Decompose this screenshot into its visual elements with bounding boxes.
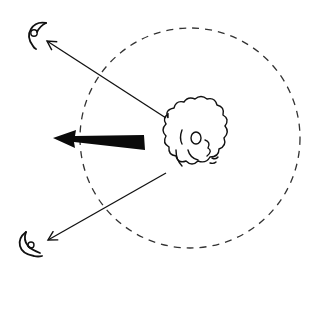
diagram-canvas [0, 0, 315, 317]
thick-direction-arrow [53, 130, 145, 150]
ear-icon [20, 232, 42, 257]
sound-source-cloud-icon [163, 97, 227, 167]
arrow-to-bottom-listener [48, 173, 166, 240]
arrow-to-top-listener [47, 41, 166, 118]
ear-icon [29, 23, 46, 49]
